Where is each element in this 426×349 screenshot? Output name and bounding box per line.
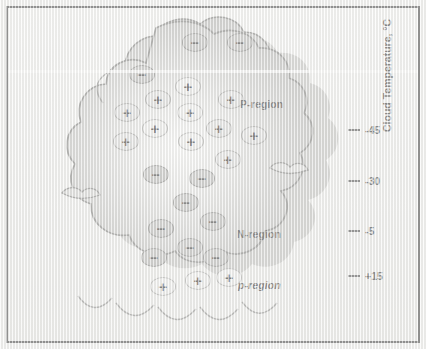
positive-charge-p-region-9: + <box>178 132 204 151</box>
negative-charge-n-region-7: − <box>203 248 229 267</box>
cloud-charge-diagram: −−−+++++++++++−−−−−−−−+++ P-region N-reg… <box>0 0 426 349</box>
positive-charge-p-region-lower-1: + <box>185 271 211 290</box>
tick-mark-icon <box>348 275 360 277</box>
negative-charge-screening-0: − <box>182 33 208 52</box>
positive-charge-p-region-1: + <box>145 90 171 109</box>
positive-charge-p-region-3: + <box>114 103 140 122</box>
axis-title: Cloud Temperature, °C <box>381 0 393 132</box>
negative-charge-n-region-3: − <box>200 212 226 231</box>
tick-mark-icon <box>348 180 360 182</box>
tick-mark-icon <box>348 230 360 232</box>
negative-charge-n-region-2: − <box>173 193 199 212</box>
temperature-tick-1: -30 <box>348 175 380 187</box>
negative-charge-n-region-5: − <box>177 238 203 257</box>
tick-label: -5 <box>365 225 374 237</box>
temperature-tick-3: +15 <box>348 270 383 282</box>
region-label-p-lower: p-region <box>238 279 281 291</box>
negative-charge-screening-1: − <box>227 33 253 52</box>
tick-label: -30 <box>365 175 380 187</box>
temperature-tick-0: -45 <box>348 124 380 136</box>
region-label-p-upper: P-region <box>240 98 283 110</box>
positive-charge-p-region-7: + <box>241 126 267 145</box>
negative-charge-n-region-0: − <box>143 165 169 184</box>
negative-charge-n-region-4: − <box>148 219 174 238</box>
tick-label: -45 <box>365 124 380 136</box>
negative-charge-n-region-6: − <box>141 248 167 267</box>
negative-charge-n-region-1: − <box>189 169 215 188</box>
positive-charge-p-region-4: + <box>177 103 203 122</box>
positive-charge-p-region-lower-0: + <box>150 277 176 296</box>
region-label-n: N-region <box>237 228 281 240</box>
tick-label: +15 <box>365 270 383 282</box>
negative-charge-screening-2: − <box>129 65 155 84</box>
positive-charge-p-region-6: + <box>206 119 232 138</box>
positive-charge-p-region-10: + <box>215 150 241 169</box>
positive-charge-p-region-8: + <box>113 132 139 151</box>
positive-charge-p-region-0: + <box>175 77 201 96</box>
positive-charge-p-region-5: + <box>142 119 168 138</box>
temperature-tick-2: -5 <box>348 225 374 237</box>
tick-mark-icon <box>348 129 360 131</box>
